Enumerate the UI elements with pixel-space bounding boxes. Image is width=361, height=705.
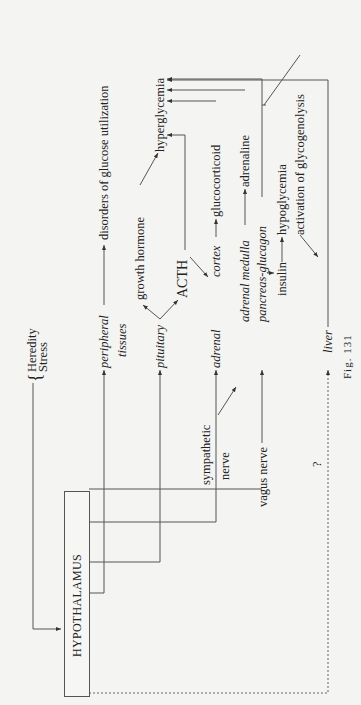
acth-label: ACTH (176, 260, 190, 298)
adrenal-medulla-label: adrenal medulla (239, 240, 252, 322)
sympathetic-label-1: sympathetic (200, 425, 213, 485)
liver-label: liver (322, 330, 335, 353)
adrenal-cortex-label-1: adrenal (210, 330, 223, 368)
hypoglycemia-label: hypoglycemia (276, 164, 289, 235)
adrenaline-label: adrenaline (239, 135, 252, 187)
pituitary-label: pituitary (154, 325, 167, 368)
insulin-label: insulin (276, 262, 289, 296)
hypothalamus-glucose-diagram: HYPOTHALAMUS { Heredity Stress periphera… (0, 0, 361, 705)
glucocorticoid-label: glucocorticoid (210, 145, 223, 217)
growth-hormone-label: growth hormone (134, 217, 147, 300)
stress-label: Stress (37, 342, 50, 372)
brace-icon: { (26, 373, 44, 382)
figure-caption: Fig. 131 (342, 334, 353, 379)
adrenal-cortex-label-2: cortex (210, 246, 223, 277)
peripheral-label: peripheral (98, 315, 111, 368)
hyperglycemia-label: hyperglycemia (154, 78, 167, 152)
glycogenolysis-label: activation of glycogenolysis (294, 94, 307, 235)
tissues-label: tissues (116, 324, 129, 357)
hypothalamus-label: HYPOTHALAMUS (71, 554, 83, 657)
sympathetic-label-2: nerve (219, 452, 232, 480)
vagus-nerve-label: vagus nerve (257, 447, 270, 507)
pancreas-label: pancreas-glucagon (256, 226, 269, 322)
unknown-pathway-label: ? (311, 461, 324, 467)
disorders-label: disorders of glucose utilization (98, 86, 111, 240)
